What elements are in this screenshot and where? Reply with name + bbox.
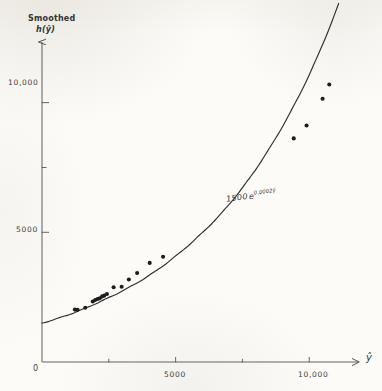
origin-label: 0 (33, 364, 39, 373)
data-point (148, 261, 152, 265)
data-point (292, 136, 296, 140)
data-point (127, 277, 131, 281)
data-point (135, 271, 139, 275)
axes (42, 42, 358, 362)
scatter-points (73, 82, 332, 312)
x-axis-label: ŷ (366, 352, 372, 363)
x-tick-label-10000: 10,000 (298, 370, 328, 379)
data-point (83, 306, 87, 310)
data-point (305, 123, 309, 127)
fitted-curve (42, 3, 339, 323)
tick-marks (42, 103, 310, 363)
data-point (327, 82, 331, 86)
data-point (321, 97, 325, 101)
data-point (120, 285, 124, 289)
data-point (161, 255, 165, 259)
y-axis-label-line2: h(ŷ) (36, 25, 55, 34)
figure-canvas: Smoothed h(ŷ) 10,000 5000 0 5000 10,000 … (0, 0, 382, 391)
annotation-exponent: 0.0002ŷ (253, 187, 275, 196)
data-point (75, 308, 79, 312)
data-point (105, 292, 109, 296)
y-tick-label-10000: 10,000 (8, 78, 38, 87)
y-axis-label-line1: Smoothed (28, 14, 75, 23)
x-tick-label-5000: 5000 (164, 370, 186, 379)
y-tick-label-5000: 5000 (16, 225, 38, 234)
data-point (112, 285, 116, 289)
plot-area (0, 0, 382, 391)
